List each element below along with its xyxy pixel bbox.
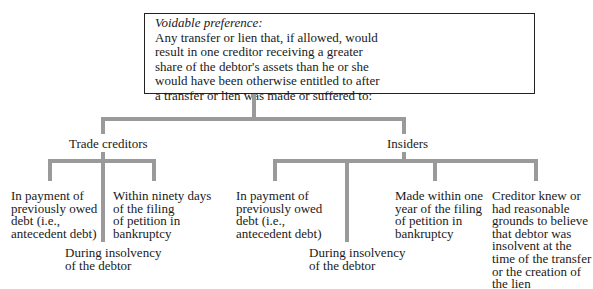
node-line: the lien xyxy=(492,278,591,289)
node-line: bankruptcy xyxy=(395,228,483,241)
definition-line: result in one creditor receiving a great… xyxy=(155,45,534,60)
node-line: of the debtor xyxy=(65,260,161,273)
main-horizontal-connector xyxy=(101,117,406,121)
insiders-heading: Insiders xyxy=(387,137,428,151)
trade-antecedent-debt-node: In payment of previously owed debt (i.e.… xyxy=(11,190,97,240)
insiders-antecedent-debt-node: In payment of previously owed debt (i.e.… xyxy=(236,190,322,240)
insiders-one-year-node: Made within one year of the filing of pe… xyxy=(395,190,483,240)
insiders-creditor-knew-node: Creditor knew or had reasonable grounds … xyxy=(492,190,591,289)
definition-title: Voidable preference: xyxy=(155,16,534,31)
node-line: bankruptcy xyxy=(113,228,211,241)
trade-ninety-days-node: Within ninety days of the filing of peti… xyxy=(113,190,211,240)
trade-creditors-heading: Trade creditors xyxy=(69,137,148,151)
definition-line: would have been otherwise entitled to af… xyxy=(155,74,534,89)
insiders-insolvency-node: During insolvency of the debtor xyxy=(309,247,405,272)
definition-line: Any transfer or lien that, if allowed, w… xyxy=(155,31,534,46)
insiders-child3-drop xyxy=(433,159,437,181)
insiders-child1-drop xyxy=(273,159,277,181)
node-line: of the debtor xyxy=(309,260,405,273)
trade-drop-connector xyxy=(101,117,105,134)
definition-line: a transfer or lien was made or suffered … xyxy=(155,89,534,104)
trade-child3-drop xyxy=(152,159,156,181)
insiders-drop-connector xyxy=(402,117,406,134)
trade-child1-drop xyxy=(48,159,52,181)
voidable-preference-definition-box: Voidable preference: Any transfer or lie… xyxy=(144,13,535,94)
definition-line: share of the debtor's assets than he or … xyxy=(155,60,534,75)
node-line: antecedent debt) xyxy=(236,228,322,241)
insiders-child2-drop xyxy=(345,159,349,242)
insiders-child4-drop xyxy=(534,159,538,181)
insiders-sub-horizontal xyxy=(273,159,538,163)
trade-insolvency-node: During insolvency of the debtor xyxy=(65,247,161,272)
trade-child2-drop xyxy=(101,159,105,242)
node-line: antecedent debt) xyxy=(11,228,97,241)
